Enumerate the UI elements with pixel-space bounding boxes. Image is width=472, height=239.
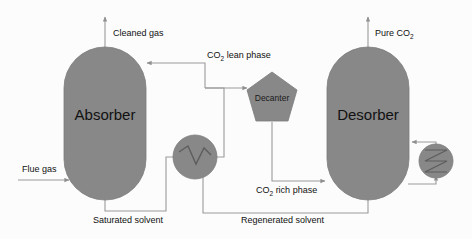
- label-pure-co2-sub: 2: [410, 33, 414, 40]
- label-co2-lean-post: lean phase: [224, 50, 271, 60]
- absorber-vessel[interactable]: [64, 47, 146, 200]
- label-co2-rich-post: rich phase: [273, 185, 317, 195]
- label-pure-co2-pre: Pure CO: [375, 28, 410, 38]
- heat-exchanger-unit[interactable]: [173, 135, 217, 179]
- label-flue-gas: Flue gas: [22, 164, 57, 174]
- label-regenerated-solvent: Regenerated solvent: [241, 215, 325, 225]
- absorber-label: Absorber: [75, 106, 136, 123]
- flow-diagram-canvas: Absorber Desorber Decanter Cleaned gas P…: [0, 0, 472, 239]
- label-pure-co2: Pure CO2: [375, 28, 414, 40]
- stream-line-co2-lean-phase: [147, 63, 205, 88]
- desorber-label: Desorber: [337, 106, 399, 123]
- stream-line-co2-rich-phase: [272, 122, 325, 181]
- process-flow-diagram: Absorber Desorber Decanter Cleaned gas P…: [0, 0, 472, 239]
- desorber-vessel[interactable]: [327, 47, 409, 200]
- label-co2-lean-phase: CO2 lean phase: [207, 50, 271, 62]
- label-cleaned-gas: Cleaned gas: [113, 28, 164, 38]
- decanter-label: Decanter: [255, 93, 290, 103]
- label-co2-lean-pre: CO: [207, 50, 221, 60]
- heat-exchanger-body[interactable]: [173, 135, 217, 179]
- label-co2-rich-phase: CO2 rich phase: [256, 185, 317, 197]
- reboiler-unit[interactable]: [419, 144, 453, 178]
- label-saturated-solvent: Saturated solvent: [93, 215, 164, 225]
- label-co2-rich-pre: CO: [256, 185, 270, 195]
